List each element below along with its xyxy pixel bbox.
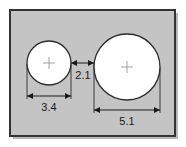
figure-root: 3.4 2.1 5.1 (0, 0, 186, 147)
dimension-label-gap: 2.1 (75, 69, 90, 81)
dimension-label-small-diameter: 3.4 (41, 101, 56, 113)
engineering-drawing: 3.4 2.1 5.1 (0, 0, 186, 147)
dimension-label-large-diameter: 5.1 (119, 115, 134, 127)
